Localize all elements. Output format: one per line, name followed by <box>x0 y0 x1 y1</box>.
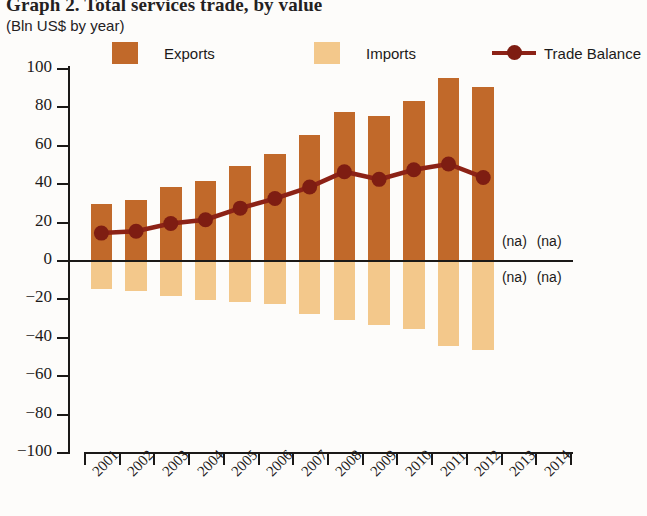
trade-balance-polyline <box>101 164 483 233</box>
chart-plot-area: 100806040200−20−40−60−80−100 (na)(na)(na… <box>68 66 573 454</box>
y-tick-label: 100 <box>0 57 52 77</box>
trade-balance-point <box>406 162 421 177</box>
trade-balance-marker-icon <box>492 42 536 64</box>
legend-item-trade-balance: Trade Balance <box>492 41 641 65</box>
trade-balance-point <box>372 172 387 187</box>
y-tick <box>57 337 68 339</box>
y-tick <box>57 222 68 224</box>
trade-balance-point <box>94 226 109 241</box>
y-tick-label: 0 <box>0 249 52 269</box>
chart-subtitle: (Bln US$ by year) <box>6 17 124 34</box>
legend-item-imports: Imports <box>314 41 416 65</box>
y-tick <box>57 183 68 185</box>
legend-item-exports: Exports <box>112 41 215 65</box>
trade-balance-point <box>441 157 456 172</box>
na-label: (na) <box>502 233 527 249</box>
y-tick <box>57 414 68 416</box>
y-tick-label: 80 <box>0 95 52 115</box>
trade-balance-point <box>198 212 213 227</box>
y-tick-label: −100 <box>0 441 52 461</box>
na-label: (na) <box>537 269 562 285</box>
trade-balance-point <box>337 164 352 179</box>
y-tick-label: −80 <box>0 403 52 423</box>
y-tick <box>57 145 68 147</box>
y-tick-label: 60 <box>0 134 52 154</box>
y-tick <box>57 68 68 70</box>
legend-label-imports: Imports <box>366 45 416 62</box>
legend-label-exports: Exports <box>164 45 215 62</box>
y-tick <box>57 375 68 377</box>
y-tick-label: −40 <box>0 326 52 346</box>
trade-balance-point <box>267 191 282 206</box>
trade-balance-point <box>163 216 178 231</box>
y-tick-label: 40 <box>0 172 52 192</box>
chart-title: Graph 2. Total services trade, by value <box>6 0 322 16</box>
y-tick-label: 20 <box>0 211 52 231</box>
na-label: (na) <box>502 269 527 285</box>
legend-label-trade-balance: Trade Balance <box>544 45 641 62</box>
trade-balance-point <box>476 170 491 185</box>
y-tick-label: −60 <box>0 364 52 384</box>
trade-balance-point <box>302 180 317 195</box>
imports-swatch-icon <box>314 42 340 64</box>
exports-swatch-icon <box>112 42 138 64</box>
y-tick <box>57 298 68 300</box>
trade-balance-point <box>129 224 144 239</box>
trade-balance-line <box>68 66 573 454</box>
trade-balance-point <box>233 201 248 216</box>
na-label: (na) <box>537 233 562 249</box>
y-tick-label: −20 <box>0 287 52 307</box>
y-tick <box>57 452 68 454</box>
chart-legend: Exports Imports Trade Balance <box>112 41 642 65</box>
x-tick <box>84 452 86 465</box>
y-tick <box>57 106 68 108</box>
y-tick <box>57 260 68 262</box>
